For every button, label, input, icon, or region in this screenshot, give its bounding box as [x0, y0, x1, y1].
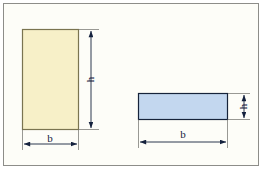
tall-rectangle-group: [23, 30, 79, 130]
tall-rectangle: [23, 30, 79, 130]
figure-caption: [4, 168, 258, 177]
wide-rectangle-width-label: b: [177, 129, 189, 140]
tall-rectangle-width-label: b: [44, 133, 56, 144]
wide-rectangle-height-label: h: [238, 101, 249, 113]
figure-canvas: [0, 0, 265, 177]
tall-rectangle-height-label: h: [85, 74, 96, 86]
wide-rectangle-group: [139, 94, 228, 120]
figure-root: h b h b: [0, 0, 265, 177]
wide-rectangle: [139, 94, 228, 120]
